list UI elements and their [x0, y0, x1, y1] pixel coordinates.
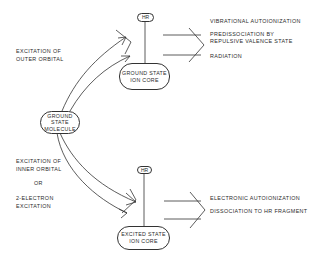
outcome-vibrational-autoionization: VIBRATIONAL AUTOIONIZATION — [210, 18, 301, 26]
label-line: EXCITATION — [16, 203, 54, 211]
ground-state-molecule-node: GROUND STATE MOLECULE — [40, 111, 80, 134]
ground-state-ion-core-node: GROUND STATE ION CORE — [119, 63, 170, 90]
label-line: INNER ORBITAL — [16, 166, 61, 174]
two-electron-label: 2-ELECTRON EXCITATION — [16, 195, 54, 210]
inner-arrowhead-1 — [126, 193, 136, 205]
lower-arrow-head — [190, 192, 205, 228]
inner-orbital-label: EXCITATION OF INNER ORBITAL — [16, 158, 61, 173]
node-line: ION CORE — [120, 77, 169, 84]
label-line: EXCITATION OF — [16, 48, 64, 56]
label-line: OUTER ORBITAL — [16, 56, 64, 64]
label-line: EXCITATION OF — [16, 158, 61, 166]
or-label: OR — [34, 180, 43, 188]
outcome-radiation: RADIATION — [210, 53, 242, 61]
upper-arrow-head — [189, 28, 204, 62]
inner-arrowhead-2 — [119, 209, 127, 218]
outcome-predissociation: PREDISSOCIATION BY REPULSIVE VALENCE STA… — [210, 31, 293, 45]
outer-orbital-label: EXCITATION OF OUTER ORBITAL — [16, 48, 64, 63]
inner-excitation-curve-2 — [57, 133, 127, 213]
label-line: PREDISSOCIATION BY — [210, 31, 293, 38]
node-line: EXCITED STATE — [118, 231, 169, 238]
hr-bottom-pill: HR — [137, 166, 152, 174]
node-line: ION CORE — [118, 238, 169, 245]
label-line: REPULSIVE VALENCE STATE — [210, 38, 293, 45]
label-line: 2-ELECTRON — [16, 195, 54, 203]
node-line: GROUND STATE — [120, 70, 169, 77]
excited-state-ion-core-node: EXCITED STATE ION CORE — [117, 226, 170, 250]
outcome-electronic-autoionization: ELECTRONIC AUTOIONIZATION — [210, 195, 300, 203]
outer-excitation-curve-1 — [62, 37, 126, 111]
hr-top-pill: HR — [137, 13, 154, 22]
hr-top-label: HR — [142, 14, 149, 20]
hr-bottom-label: HR — [141, 167, 148, 173]
outcome-dissociation-hr-fragment: DISSOCIATION TO HR FRAGMENT — [210, 208, 308, 216]
node-line: MOLECULE — [41, 126, 79, 133]
